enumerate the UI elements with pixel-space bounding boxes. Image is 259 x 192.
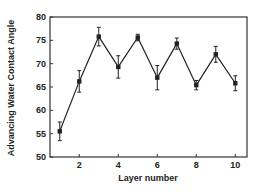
y-tick-label: 70 (36, 59, 46, 69)
data-point-marker (175, 41, 179, 45)
data-point-marker (77, 79, 81, 83)
x-tick-label: 6 (155, 160, 160, 170)
data-point-marker (136, 35, 140, 39)
y-tick-label: 50 (36, 152, 46, 162)
data-point-marker (116, 65, 120, 69)
y-axis-title: Advancing Water Contact Angle (6, 20, 16, 156)
x-tick-label: 8 (194, 160, 199, 170)
x-axis: 246810 (77, 154, 241, 170)
y-tick-label: 75 (36, 35, 46, 45)
x-tick-label: 10 (230, 160, 240, 170)
data-point-marker (194, 83, 198, 87)
data-point-marker (58, 129, 62, 133)
y-tick-label: 65 (36, 82, 46, 92)
x-tick-label: 2 (77, 160, 82, 170)
y-tick-label: 60 (36, 105, 46, 115)
data-series (58, 27, 238, 140)
series-line (60, 37, 236, 132)
data-point-marker (97, 34, 101, 38)
y-tick-label: 55 (36, 129, 46, 139)
data-point-marker (155, 75, 159, 79)
x-axis-title: Layer number (118, 173, 178, 183)
data-point-marker (233, 81, 237, 85)
y-tick-label: 80 (36, 12, 46, 22)
line-chart: 50556065707580 246810 Layer number Advan… (0, 0, 259, 192)
data-point-marker (214, 52, 218, 56)
x-tick-label: 4 (116, 160, 121, 170)
